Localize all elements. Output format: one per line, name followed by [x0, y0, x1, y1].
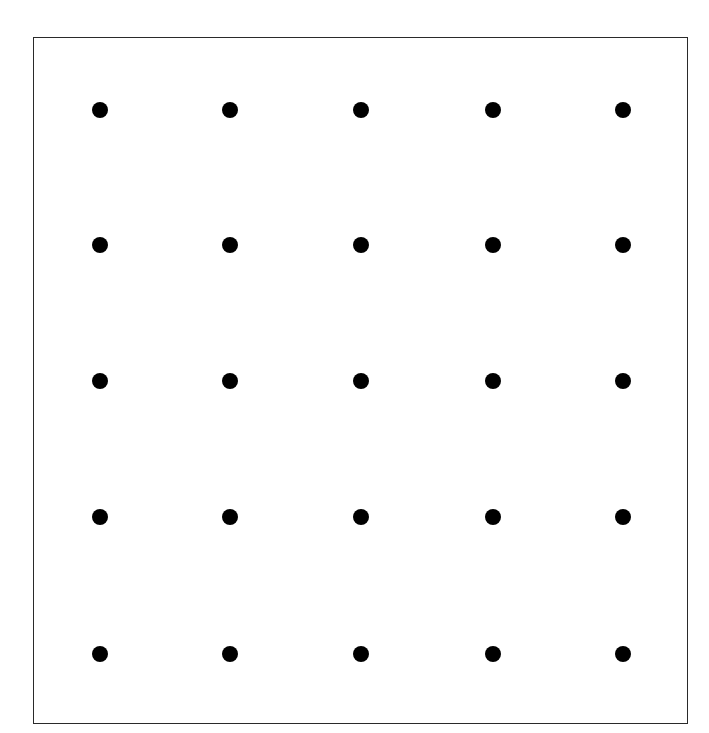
- grid-dot: [615, 509, 631, 525]
- grid-dot: [485, 646, 501, 662]
- grid-dot: [92, 646, 108, 662]
- grid-dot: [353, 646, 369, 662]
- grid-dot: [92, 509, 108, 525]
- grid-dot: [222, 646, 238, 662]
- grid-dot: [222, 509, 238, 525]
- grid-dot: [222, 102, 238, 118]
- grid-dot: [353, 509, 369, 525]
- grid-dot: [92, 237, 108, 253]
- grid-dot: [485, 102, 501, 118]
- grid-dot: [353, 102, 369, 118]
- grid-dot: [615, 237, 631, 253]
- grid-dot: [615, 102, 631, 118]
- grid-dot: [615, 646, 631, 662]
- grid-dot: [485, 509, 501, 525]
- grid-dot: [222, 373, 238, 389]
- grid-dot: [92, 373, 108, 389]
- dot-grid: [0, 0, 709, 733]
- grid-dot: [222, 237, 238, 253]
- grid-dot: [615, 373, 631, 389]
- grid-dot: [92, 102, 108, 118]
- grid-dot: [485, 237, 501, 253]
- grid-dot: [485, 373, 501, 389]
- grid-dot: [353, 237, 369, 253]
- grid-dot: [353, 373, 369, 389]
